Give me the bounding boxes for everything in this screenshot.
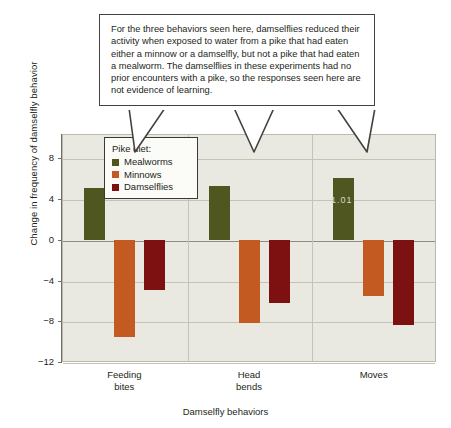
callout-box: For the three behaviors seen here, damse…: [99, 14, 375, 106]
legend-swatch: [112, 184, 119, 191]
legend-entry: Minnows: [112, 170, 191, 180]
bar: [84, 188, 105, 240]
callout-text: For the three behaviors seen here, damse…: [111, 23, 364, 97]
bar: [209, 186, 230, 240]
y-tick-mark: [58, 158, 62, 159]
bar: [144, 240, 165, 290]
legend-label: Damselflies: [124, 182, 173, 192]
gridline-x: [312, 135, 313, 361]
gridline-y: [63, 200, 435, 201]
x-tick-label: Headbends: [187, 369, 312, 393]
bar: [333, 178, 354, 240]
bar: [393, 240, 414, 326]
legend-label: Minnows: [124, 170, 162, 180]
bar: [269, 240, 290, 303]
y-axis-title: Change in frequency of damselfly behavio…: [28, 39, 39, 269]
callout-tails: [99, 108, 399, 168]
gridline-y: [63, 363, 435, 364]
bar: [363, 240, 384, 296]
legend-entry: Damselflies: [112, 182, 191, 192]
chart-figure: 1.01 840−4−8−12 FeedingbitesHeadbendsMov…: [0, 0, 451, 428]
bar: [114, 240, 135, 337]
watermark: 1.01: [331, 195, 353, 205]
y-tick-mark: [58, 199, 62, 200]
y-tick-label: −4: [30, 276, 54, 285]
y-tick-mark: [58, 240, 62, 241]
y-tick-label: −12: [30, 357, 54, 366]
x-axis-title: Damselfly behaviors: [0, 406, 451, 417]
y-tick-label: −8: [30, 316, 54, 325]
x-tick-label: Feedingbites: [62, 369, 187, 393]
y-tick-mark: [58, 321, 62, 322]
bar: [239, 240, 260, 323]
legend-swatch: [112, 171, 119, 178]
y-tick-mark: [58, 281, 62, 282]
y-axis-line: [61, 134, 62, 363]
x-tick-label: Moves: [311, 369, 436, 381]
y-tick-mark: [58, 362, 62, 363]
